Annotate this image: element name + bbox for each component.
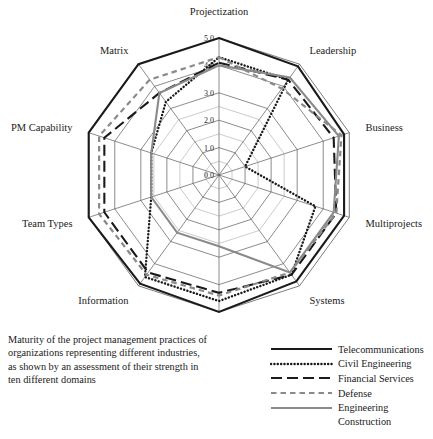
legend-label: Engineering: [338, 402, 388, 413]
axis-label-team-types: Team Types: [22, 218, 73, 229]
legend-line-swatch: [270, 343, 333, 355]
axis-label-information: Information: [78, 295, 129, 306]
axis-label-multiprojects: Multiprojects: [366, 218, 423, 229]
legend-label-continuation: Construction: [270, 415, 424, 430]
radial-tick-labels: 0.01.02.03.04.05.0: [204, 34, 214, 180]
radar-chart-svg: 0.01.02.03.04.05.0ProjectizationLeadersh…: [0, 0, 433, 330]
axis-label-projectization: Projectization: [190, 6, 249, 17]
chart-legend: TelecommunicationsCivil EngineeringFinan…: [270, 342, 424, 430]
axis-label-matrix: Matrix: [100, 45, 129, 56]
legend-line-swatch: [270, 402, 333, 414]
legend-line-swatch: [270, 372, 333, 384]
radar-chart: 0.01.02.03.04.05.0ProjectizationLeadersh…: [0, 0, 433, 330]
axis-label-leadership: Leadership: [310, 45, 357, 56]
radar-axis-labels: ProjectizationLeadershipBusinessMultipro…: [11, 6, 422, 330]
radar-series-telecommunications: [89, 38, 344, 312]
chart-caption: Maturity of the project management pract…: [8, 333, 208, 386]
legend-label: Financial Services: [338, 373, 414, 384]
legend-item-defense: Defense: [270, 386, 424, 401]
chart-footer: Maturity of the project management pract…: [0, 333, 433, 439]
legend-item-telecommunications: Telecommunications: [270, 342, 424, 357]
legend-label: Telecommunications: [338, 344, 424, 355]
radial-tick-label: 0.0: [204, 171, 214, 180]
legend-item-financial-services: Financial Services: [270, 371, 424, 386]
axis-label-systems: Systems: [310, 295, 345, 306]
radar-series-group: [89, 38, 344, 312]
legend-line-swatch: [270, 387, 333, 399]
legend-item-engineering: Engineering: [270, 400, 424, 415]
radial-tick-label: 3.0: [204, 89, 214, 98]
radial-tick-label: 1.0: [204, 144, 214, 153]
legend-item-civil-engineering: Civil Engineering: [270, 357, 424, 372]
legend-label: Defense: [338, 388, 372, 399]
axis-label-pm-capability: PM Capability: [11, 122, 73, 133]
axis-label-business: Business: [366, 122, 403, 133]
legend-line-swatch: [270, 358, 333, 370]
legend-label: Civil Engineering: [338, 358, 412, 369]
radial-tick-label: 2.0: [204, 116, 214, 125]
